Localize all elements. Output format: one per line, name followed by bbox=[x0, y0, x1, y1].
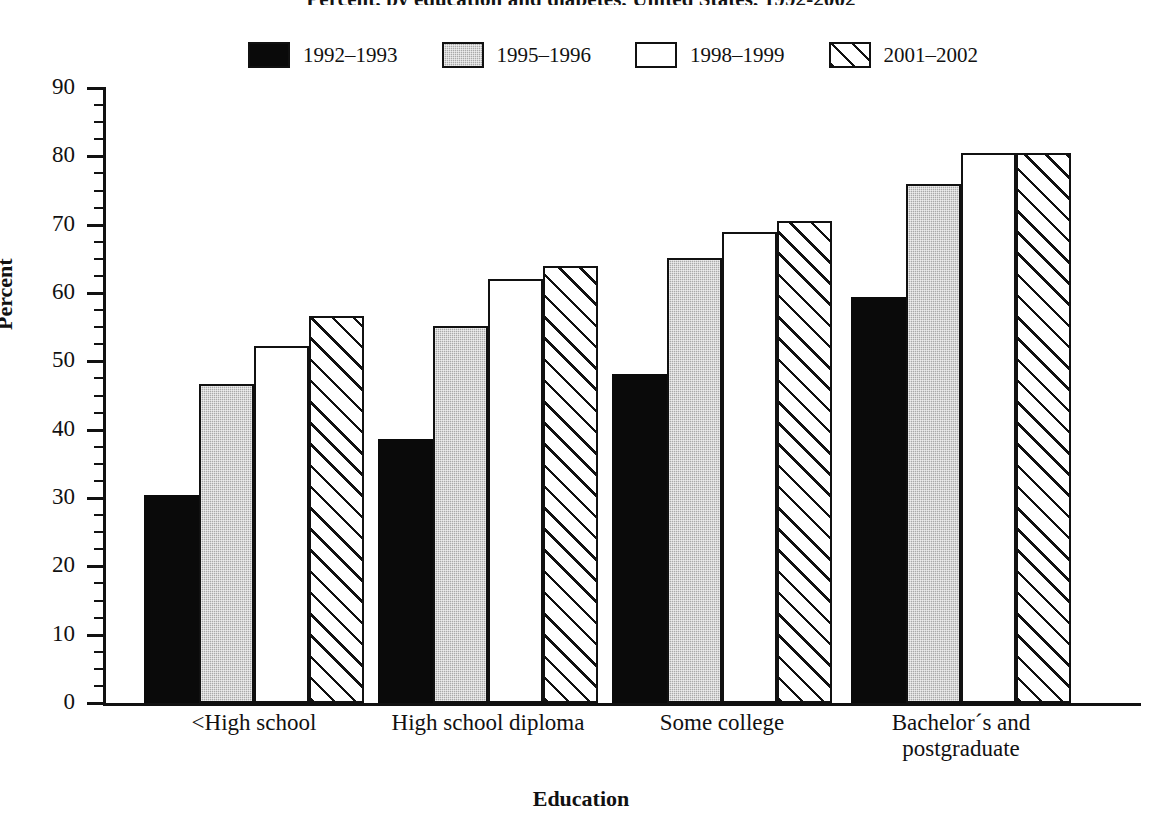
y-tick-minor bbox=[94, 463, 103, 465]
figure: Percent, by education and diabetes, Unit… bbox=[0, 0, 1162, 838]
x-axis-title: Education bbox=[0, 786, 1162, 812]
bar-group bbox=[612, 88, 832, 703]
x-category-label: High school diploma bbox=[338, 710, 638, 736]
legend-item[interactable]: 2001–2002 bbox=[829, 42, 979, 68]
bar[interactable] bbox=[378, 439, 433, 703]
y-axis-line bbox=[103, 87, 106, 705]
y-tick-minor bbox=[94, 190, 103, 192]
bar-group bbox=[851, 88, 1071, 703]
y-tick-minor bbox=[94, 600, 103, 602]
y-tick-minor bbox=[94, 207, 103, 209]
y-tick-minor bbox=[94, 531, 103, 533]
y-tick-major bbox=[87, 155, 103, 158]
y-tick-minor bbox=[94, 121, 103, 123]
legend-label: 1995–1996 bbox=[497, 43, 592, 68]
chart-legend: 1992–19931995–19961998–19992001–2002 bbox=[248, 40, 948, 70]
x-category-label-line: High school diploma bbox=[338, 710, 638, 736]
x-category-label: Some college bbox=[602, 710, 842, 736]
plot-area: 9080706050403020100<High schoolHigh scho… bbox=[103, 88, 1143, 703]
bar[interactable] bbox=[433, 326, 488, 703]
y-tick-minor bbox=[94, 668, 103, 670]
legend-item[interactable]: 1998–1999 bbox=[635, 42, 785, 68]
y-tick-label: 30 bbox=[31, 485, 75, 508]
y-tick-minor bbox=[94, 685, 103, 687]
y-tick-major bbox=[87, 224, 103, 227]
y-tick-minor bbox=[94, 412, 103, 414]
y-tick-minor bbox=[94, 172, 103, 174]
y-tick-label: 40 bbox=[31, 417, 75, 440]
y-tick-minor bbox=[94, 258, 103, 260]
y-tick-label: 10 bbox=[31, 622, 75, 645]
bar-group bbox=[378, 88, 598, 703]
bar[interactable] bbox=[667, 258, 722, 703]
bar[interactable] bbox=[144, 495, 199, 703]
x-category-label-line: postgraduate bbox=[836, 736, 1086, 762]
y-tick-minor bbox=[94, 343, 103, 345]
y-axis-title: Percent bbox=[0, 190, 18, 330]
legend-swatch-hatch bbox=[829, 42, 871, 68]
y-tick-label: 60 bbox=[31, 280, 75, 303]
bar[interactable] bbox=[1016, 153, 1071, 703]
y-tick-label: 90 bbox=[31, 75, 75, 98]
legend-label: 1992–1993 bbox=[303, 43, 398, 68]
bar[interactable] bbox=[199, 384, 254, 703]
bar[interactable] bbox=[612, 374, 667, 703]
y-tick-minor bbox=[94, 138, 103, 140]
x-axis-line bbox=[103, 703, 1141, 706]
chart-title: Percent, by education and diabetes, Unit… bbox=[0, 0, 1162, 5]
y-tick-minor bbox=[94, 309, 103, 311]
x-category-label-line: Bachelor´s and bbox=[836, 710, 1086, 736]
y-tick-minor bbox=[94, 582, 103, 584]
y-tick-label: 20 bbox=[31, 553, 75, 576]
x-category-label: Bachelor´s andpostgraduate bbox=[836, 710, 1086, 763]
bar[interactable] bbox=[777, 221, 832, 703]
bar-group bbox=[144, 88, 364, 703]
y-tick-minor bbox=[94, 104, 103, 106]
y-tick-minor bbox=[94, 480, 103, 482]
y-tick-major bbox=[87, 634, 103, 637]
y-tick-major bbox=[87, 429, 103, 432]
y-tick-minor bbox=[94, 514, 103, 516]
y-tick-minor bbox=[94, 377, 103, 379]
y-tick-major bbox=[87, 565, 103, 568]
bar[interactable] bbox=[906, 184, 961, 703]
y-tick-minor bbox=[94, 241, 103, 243]
y-tick-minor bbox=[94, 548, 103, 550]
bar[interactable] bbox=[543, 266, 598, 703]
y-tick-label: 80 bbox=[31, 143, 75, 166]
y-tick-label: 50 bbox=[31, 348, 75, 371]
x-category-label-line: Some college bbox=[602, 710, 842, 736]
y-tick-minor bbox=[94, 395, 103, 397]
legend-item[interactable]: 1995–1996 bbox=[442, 42, 592, 68]
bar[interactable] bbox=[488, 279, 543, 703]
y-tick-major bbox=[87, 497, 103, 500]
legend-swatch-white bbox=[635, 42, 677, 68]
y-tick-major bbox=[87, 360, 103, 363]
y-tick-minor bbox=[94, 326, 103, 328]
y-tick-minor bbox=[94, 651, 103, 653]
y-tick-label: 0 bbox=[31, 690, 75, 713]
legend-swatch-gray bbox=[442, 42, 484, 68]
legend-swatch-solid bbox=[248, 42, 290, 68]
bar[interactable] bbox=[722, 232, 777, 704]
bar[interactable] bbox=[309, 316, 364, 703]
y-tick-major bbox=[87, 702, 103, 705]
bar[interactable] bbox=[961, 153, 1016, 703]
y-tick-label: 70 bbox=[31, 212, 75, 235]
bar[interactable] bbox=[254, 346, 309, 703]
y-tick-minor bbox=[94, 275, 103, 277]
y-tick-minor bbox=[94, 446, 103, 448]
legend-label: 1998–1999 bbox=[690, 43, 785, 68]
bar[interactable] bbox=[851, 297, 906, 703]
legend-item[interactable]: 1992–1993 bbox=[248, 42, 398, 68]
legend-label: 2001–2002 bbox=[884, 43, 979, 68]
y-tick-minor bbox=[94, 617, 103, 619]
y-tick-major bbox=[87, 292, 103, 295]
y-tick-major bbox=[87, 87, 103, 90]
